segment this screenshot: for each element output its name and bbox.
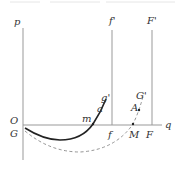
p-axis-label: p (14, 16, 21, 27)
diagram-canvas: p q O G f' F' f F m a g' M A G' (0, 0, 180, 170)
M-label: M (128, 129, 140, 140)
F-prime-label: F' (146, 15, 157, 26)
point-m (92, 123, 94, 125)
m-label: m (82, 113, 91, 124)
f-prime-label: f' (108, 15, 115, 26)
G-prime-label: G' (136, 90, 147, 101)
solid-curve (25, 99, 106, 140)
G-label: G (10, 128, 18, 139)
q-axis-label: q (165, 119, 171, 130)
origin-label: O (10, 115, 18, 126)
point-M (132, 123, 134, 125)
A-label: A (130, 102, 138, 113)
F-label: F (145, 129, 154, 140)
g-prime-label: g' (101, 92, 110, 103)
f-label: f (107, 129, 114, 140)
a-label: a (97, 103, 103, 114)
